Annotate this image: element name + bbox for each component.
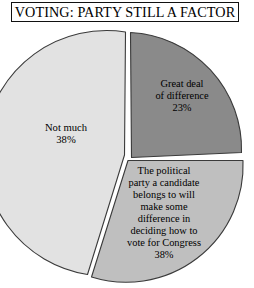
slice-label-line: Great deal [161,78,204,89]
slice-label-line: vote for Congress [127,237,201,248]
slice-label-not-much: Not much 38% [26,122,106,147]
chart-title-box: VOTING: PARTY STILL A FACTOR [11,2,239,22]
slice-label-line: Not much [45,122,87,133]
chart-area: Great deal of difference 23% Not much 38… [0,0,254,288]
slice-label-line: make some [140,201,187,212]
pie-chart-figure: VOTING: PARTY STILL A FACTOR Great deal … [0,0,254,288]
slice-value-great-deal: 23% [140,102,224,114]
page-title: VOTING: PARTY STILL A FACTOR [15,5,236,19]
slice-value-not-much: 38% [26,134,106,146]
slice-label-line: difference in [138,213,191,224]
slice-label-line: belongs to will [133,189,195,200]
slice-label-some-difference: The political party a candidate belongs … [110,165,218,262]
slice-label-great-deal: Great deal of difference 23% [140,78,224,114]
slice-label-line: of difference [155,90,208,101]
slice-label-line: deciding how to [131,225,198,236]
slice-label-line: The political [138,165,191,176]
slice-value-some-difference: 38% [110,249,218,261]
slice-label-line: party a candidate [129,177,200,188]
